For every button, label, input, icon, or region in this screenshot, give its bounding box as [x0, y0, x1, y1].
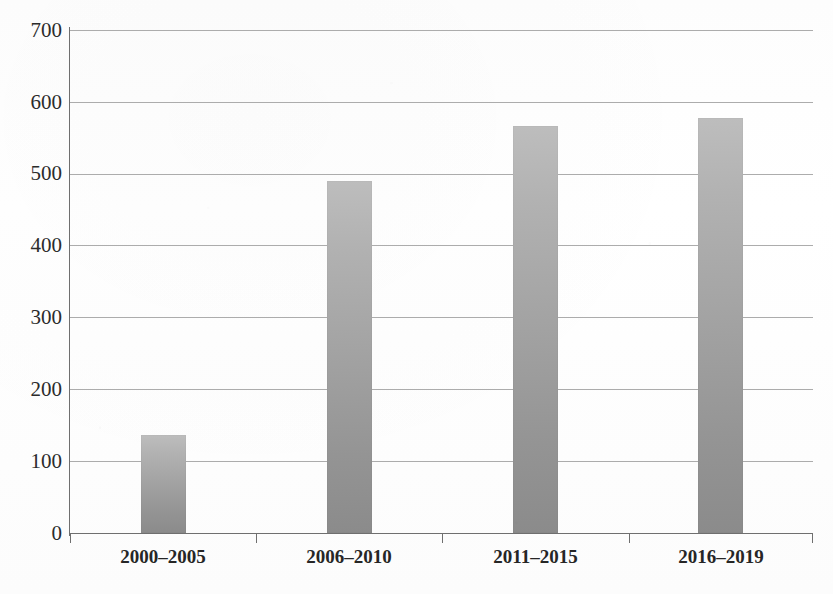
x-tick-3 — [629, 533, 630, 543]
gridline-700 — [70, 30, 813, 31]
chart-title — [0, 0, 833, 2]
plot-area — [70, 30, 813, 533]
y-tick-label-300: 300 — [10, 307, 62, 328]
chart-page: 700 600 500 400 300 200 100 0 2000–2005 … — [0, 0, 833, 594]
y-tick-label-100: 100 — [10, 451, 62, 472]
bar-2011-2015[interactable] — [513, 126, 558, 533]
x-axis-label-2011-2015: 2011–2015 — [442, 546, 629, 568]
x-tick-4 — [812, 533, 813, 543]
x-tick-2 — [442, 533, 443, 543]
y-tick-label-0: 0 — [10, 523, 62, 544]
x-tick-1 — [256, 533, 257, 543]
x-axis-label-2006-2010: 2006–2010 — [256, 546, 442, 568]
x-tick-0 — [70, 533, 71, 543]
y-tick-label-200: 200 — [10, 379, 62, 400]
bar-2006-2010[interactable] — [327, 181, 372, 533]
y-tick-label-700: 700 — [10, 20, 62, 41]
x-axis-label-2000-2005: 2000–2005 — [70, 546, 256, 568]
bar-2016-2019[interactable] — [698, 118, 743, 533]
bar-2000-2005[interactable] — [141, 435, 186, 533]
x-axis-label-2016-2019: 2016–2019 — [629, 546, 813, 568]
y-tick-label-400: 400 — [10, 235, 62, 256]
gridline-600 — [70, 102, 813, 103]
y-tick-label-600: 600 — [10, 92, 62, 113]
y-axis-labels: 700 600 500 400 300 200 100 0 — [0, 0, 62, 594]
y-tick-label-500: 500 — [10, 163, 62, 184]
